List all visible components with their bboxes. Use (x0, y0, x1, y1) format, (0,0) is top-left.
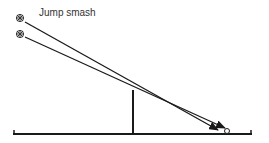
jump-smash-diagram: Jump smash (0, 0, 269, 143)
diagram-canvas (0, 0, 269, 143)
landing-marker-icon (225, 129, 230, 134)
shuttlecock-icon (16, 30, 24, 38)
shuttlecock-icon (16, 14, 24, 22)
trajectory-flat (25, 37, 225, 128)
trajectory-steep (25, 22, 218, 130)
diagram-title: Jump smash (39, 7, 96, 18)
